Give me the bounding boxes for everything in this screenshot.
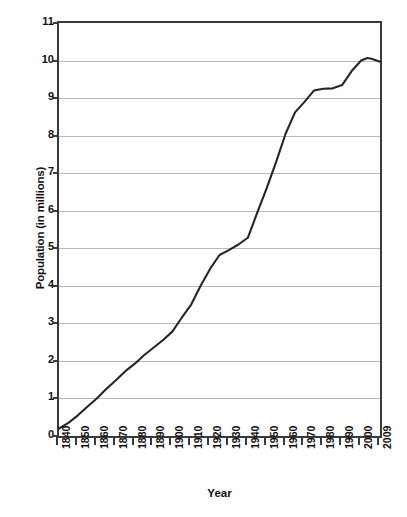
- x-tick-label: 1980: [325, 426, 336, 449]
- x-tick-label: 1920: [212, 426, 223, 449]
- x-tick-label: 1930: [231, 426, 242, 449]
- x-tick-label: 1970: [306, 426, 317, 449]
- plot-area: [57, 21, 382, 438]
- x-tick-label: 1950: [269, 426, 280, 449]
- y-tick-label: 2: [30, 353, 54, 364]
- x-tick-label: 1910: [193, 426, 204, 449]
- x-tick-label: 1900: [174, 426, 185, 449]
- x-tick-label: 1940: [250, 426, 261, 449]
- y-tick-label: 10: [30, 53, 54, 64]
- x-tick-mark: [339, 436, 341, 445]
- data-series-svg: [59, 23, 380, 436]
- y-tick-label: 1: [30, 391, 54, 402]
- x-tick-mark: [245, 436, 247, 445]
- x-tick-mark: [188, 436, 190, 445]
- x-tick-mark: [301, 436, 303, 445]
- x-tick-mark: [56, 436, 58, 445]
- x-tick-mark: [169, 436, 171, 445]
- x-tick-label: 1840: [61, 426, 72, 449]
- population-line-chart: Population (in millions) 01234567891011 …: [0, 0, 407, 517]
- y-axis-tick-labels: 01234567891011: [30, 0, 54, 517]
- y-tick-label: 3: [30, 316, 54, 327]
- population-line: [59, 58, 380, 429]
- x-tick-mark: [207, 436, 209, 445]
- x-tick-mark: [377, 436, 379, 445]
- x-tick-label: 1960: [288, 426, 299, 449]
- x-tick-label: 2009: [382, 426, 393, 449]
- y-tick-label: 8: [30, 128, 54, 139]
- x-tick-label: 2000: [363, 426, 374, 449]
- x-tick-mark: [283, 436, 285, 445]
- x-axis-tick-labels: 1840185018601870188018901900191019201930…: [57, 447, 382, 487]
- x-tick-mark: [226, 436, 228, 445]
- x-tick-mark: [75, 436, 77, 445]
- x-tick-label: 1890: [155, 426, 166, 449]
- y-tick-label: 9: [30, 91, 54, 102]
- y-tick-label: 5: [30, 241, 54, 252]
- x-tick-mark: [320, 436, 322, 445]
- y-tick-label: 7: [30, 166, 54, 177]
- x-tick-mark: [94, 436, 96, 445]
- x-tick-label: 1870: [118, 426, 129, 449]
- x-tick-mark: [264, 436, 266, 445]
- y-tick-label: 0: [30, 429, 54, 440]
- y-tick-label: 6: [30, 203, 54, 214]
- x-tick-mark: [132, 436, 134, 445]
- y-tick-label: 11: [30, 16, 54, 27]
- x-tick-mark: [150, 436, 152, 445]
- x-tick-mark: [358, 436, 360, 445]
- x-tick-label: 1880: [137, 426, 148, 449]
- x-tick-label: 1850: [80, 426, 91, 449]
- y-tick-label: 4: [30, 278, 54, 289]
- x-axis-title: Year: [57, 487, 382, 499]
- x-tick-mark: [113, 436, 115, 445]
- x-tick-label: 1860: [99, 426, 110, 449]
- x-tick-label: 1990: [344, 426, 355, 449]
